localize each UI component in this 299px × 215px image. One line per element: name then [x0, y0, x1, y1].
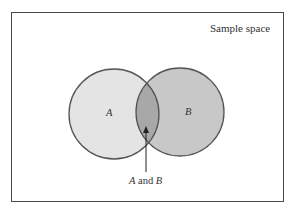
sample-space-title: Sample space [210, 22, 270, 34]
set-a-label: A [106, 107, 112, 118]
intersection-label-and: and [135, 175, 155, 186]
intersection-label: A and B [129, 175, 162, 186]
intersection-label-b: B [156, 175, 162, 186]
set-b-label: B [185, 106, 191, 117]
